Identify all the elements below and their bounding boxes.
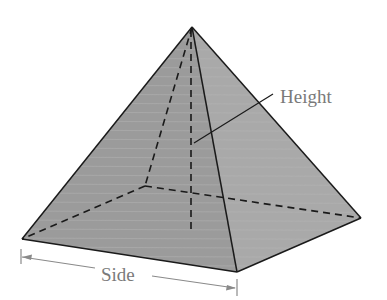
side-label: Side xyxy=(101,264,135,285)
side-dimension-line-left xyxy=(22,257,95,268)
height-label: Height xyxy=(280,86,332,107)
pyramid-diagram: Height Side xyxy=(0,0,387,300)
side-arrow-right-icon xyxy=(226,285,236,291)
side-arrow-left-icon xyxy=(22,255,32,261)
side-dimension-line-right xyxy=(152,276,235,288)
